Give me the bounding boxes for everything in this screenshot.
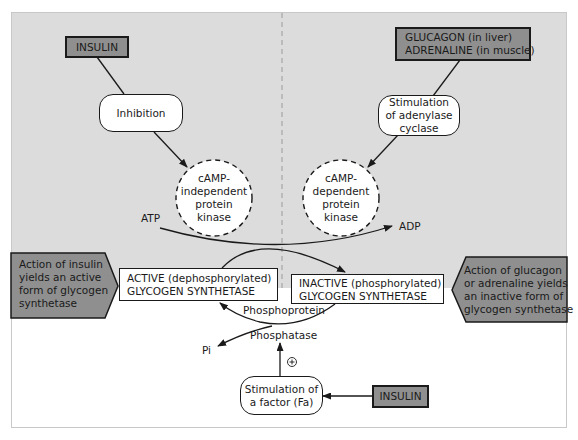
adenylase-stimulation-node: Stimulation of adenylase cyclase	[378, 95, 460, 136]
callout-line: synthetase	[19, 297, 108, 310]
glucagon-to-stimulation	[433, 60, 460, 96]
glucagon-adrenaline-box: GLUCAGON (in liver) ADRENALINE (in muscl…	[395, 27, 531, 61]
callout-line: form of glycogen	[19, 284, 108, 297]
inactive-glycogen-synthetase-box: INACTIVE (phosphorylated) GLYCOGEN SYNTH…	[291, 274, 444, 304]
insulin-label: INSULIN	[76, 41, 118, 54]
pi-label: Pi	[202, 344, 211, 357]
insulin-to-inhibition	[97, 57, 124, 94]
factor-line: Stimulation of	[245, 383, 319, 396]
inhibition-to-kinase-arrow	[154, 132, 187, 167]
factor-stimulation-node: Stimulation of a factor (Fa)	[240, 376, 323, 415]
enzyme-line: dependent	[303, 185, 379, 198]
left-callout-text: Action of insulin yields an active form …	[19, 258, 108, 310]
adrenaline-label: ADRENALINE (in muscle)	[405, 44, 535, 57]
glucagon-label: GLUCAGON (in liver)	[405, 31, 512, 44]
phosphatase-label: Phosphatase	[250, 329, 317, 342]
active-line-2: GLYCOGEN SYNTHETASE	[127, 285, 270, 298]
active-glycogen-synthetase-box: ACTIVE (dephosphorylated) GLYCOGEN SYNTH…	[119, 268, 278, 301]
callout-line: glycogen synthetase	[464, 303, 573, 316]
callout-line: Action of insulin	[19, 258, 108, 271]
enzyme-line: cAMP-	[303, 172, 379, 185]
inactive-line-2: GLYCOGEN SYNTHETASE	[299, 290, 436, 303]
adp-label: ADP	[399, 220, 421, 233]
step-line: of adenylase	[385, 109, 452, 122]
step-line: Stimulation	[389, 96, 449, 109]
stimulation-to-kinase-arrow	[368, 135, 398, 167]
enzyme-line: protein	[303, 198, 379, 211]
insulin-box-bottom: INSULIN	[372, 385, 429, 408]
step-line: cyclase	[399, 122, 438, 135]
right-callout-text: Action of glucagon or adrenaline yields …	[464, 264, 573, 316]
inactive-line-1: INACTIVE (phosphorylated)	[299, 277, 436, 290]
inhibition-label: Inhibition	[116, 107, 165, 120]
enzyme-line: kinase	[176, 211, 252, 224]
factor-line: a factor (Fa)	[250, 396, 314, 409]
callout-line: Action of glucagon	[464, 264, 573, 277]
insulin-label: INSULIN	[379, 390, 421, 403]
callout-line: yields an active	[19, 271, 108, 284]
insulin-box-top: INSULIN	[65, 36, 129, 58]
connector-layer	[0, 0, 578, 440]
active-line-1: ACTIVE (dephosphorylated)	[127, 272, 270, 285]
enzyme-line: cAMP-	[176, 172, 252, 185]
callout-line: or adrenaline yields	[464, 277, 573, 290]
inhibition-node: Inhibition	[99, 94, 183, 132]
camp-independent-kinase-label: cAMP- independent protein kinase	[176, 172, 252, 224]
phosphoprotein-label: Phosphoprotein	[243, 304, 325, 317]
camp-dependent-kinase-label: cAMP- dependent protein kinase	[303, 172, 379, 224]
atp-label: ATP	[141, 212, 160, 225]
enzyme-line: independent	[176, 185, 252, 198]
callout-line: an inactive form of	[464, 290, 573, 303]
enzyme-line: protein	[176, 198, 252, 211]
enzyme-line: kinase	[303, 211, 379, 224]
